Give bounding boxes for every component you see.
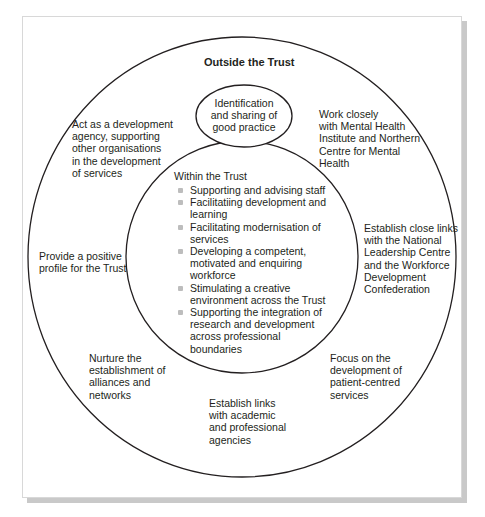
center-ellipse-text: Identification and sharing of good pract… (211, 97, 278, 133)
inner-list-item: Supporting the integration of research a… (176, 306, 326, 355)
outer-item-patient-centred: Focus on the development of patient-cent… (330, 352, 402, 401)
center-ellipse-label: Identification and sharing of good pract… (199, 97, 289, 134)
inner-list-item: Developing a competent, motivated and en… (176, 245, 326, 282)
inner-list-item: Facilitatiing development and learning (176, 196, 326, 220)
bullet-icon (178, 249, 183, 254)
bullet-icon (178, 310, 183, 315)
inner-list-item-text: Facilitating modernisation of services (190, 221, 321, 245)
outer-item-positive-profile: Provide a positive profile for the Trust (39, 250, 127, 274)
inner-list-item: Stimulating a creative environment acros… (176, 282, 326, 306)
outer-item-mental-health-institute: Work closely with Mental Health Institut… (319, 108, 420, 169)
bullet-icon (178, 225, 183, 230)
inner-list-item-text: Supporting the integration of research a… (190, 306, 322, 355)
inner-list-item: Facilitating modernisation of services (176, 221, 326, 245)
inner-list-item-text: Facilitatiing development and learning (190, 196, 326, 220)
bullet-icon (178, 200, 183, 205)
outer-item-development-agency: Act as a development agency, supporting … (72, 118, 173, 179)
outer-item-national-leadership: Establish close links with the National … (364, 222, 458, 295)
bullet-icon (178, 286, 183, 291)
bullet-icon (178, 188, 183, 193)
outer-item-nurture-alliances: Nurture the establishment of alliances a… (89, 352, 165, 401)
inner-list-item-text: Supporting and advising staff (190, 184, 325, 196)
outer-item-academic-links: Establish links with academic and profes… (209, 397, 286, 446)
inner-list-item-text: Developing a competent, motivated and en… (190, 245, 306, 281)
inner-list: Supporting and advising staff Facilitati… (176, 184, 326, 355)
inner-list-item: Supporting and advising staff (176, 184, 326, 196)
inner-list-item-text: Stimulating a creative environment acros… (190, 282, 325, 306)
inner-title: Within the Trust (174, 170, 247, 182)
outer-title: Outside the Trust (204, 56, 294, 68)
